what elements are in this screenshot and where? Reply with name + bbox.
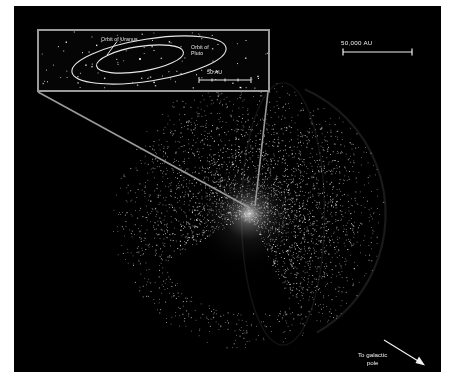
orbit-of-pluto-label: Orbit of Pluto	[191, 44, 209, 56]
scale-bar-50-au-graphic	[199, 77, 251, 83]
inner-solar-system-inset: Orbit of Uranus Orbit of Pluto 50 AU	[37, 29, 270, 92]
pluto-orbit-ellipse	[69, 31, 230, 90]
sun-marker	[139, 58, 141, 60]
scale-bar-50-au-label: 50 AU	[207, 69, 222, 75]
figure-panel: Orbit of Uranus Orbit of Pluto 50 AU 50,…	[14, 6, 441, 372]
inset-orbit-diagram	[39, 31, 268, 90]
orbit-of-uranus-label: Orbit of Uranus	[101, 36, 138, 42]
galactic-pole-label: To galactic pole	[358, 351, 387, 366]
scale-bar-50000-au-label: 50,000 AU	[341, 39, 373, 46]
